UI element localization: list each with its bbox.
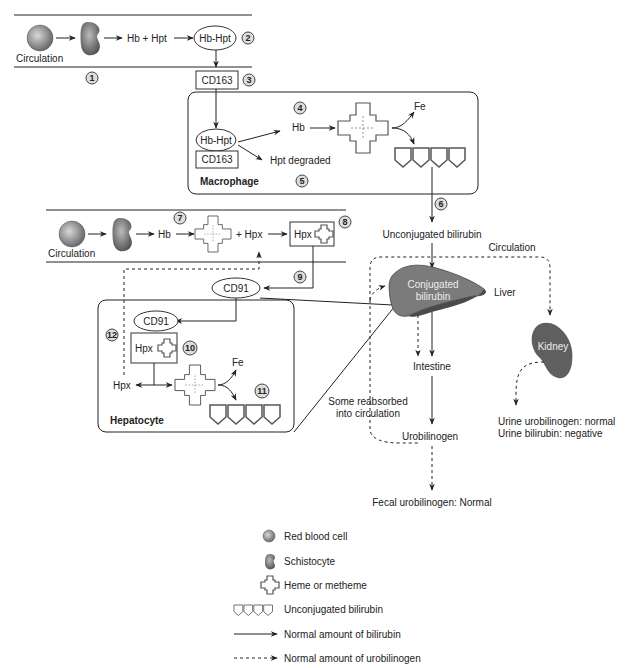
svg-text:7: 7 xyxy=(177,213,182,223)
svg-text:1: 1 xyxy=(89,73,94,83)
svg-text:11: 11 xyxy=(257,386,267,396)
svg-text:CD163: CD163 xyxy=(201,154,233,165)
heme-icon xyxy=(175,365,215,405)
heme-icon xyxy=(195,216,231,252)
svg-text:Schistocyte: Schistocyte xyxy=(284,556,336,567)
svg-text:Hpx: Hpx xyxy=(135,343,153,354)
svg-text:CD163: CD163 xyxy=(201,75,233,86)
hpx-recycled-text: Hpx xyxy=(113,380,131,391)
svg-text:into circulation: into circulation xyxy=(336,408,400,419)
svg-text:5: 5 xyxy=(299,176,304,186)
svg-text:2: 2 xyxy=(245,33,250,43)
schistocyte-icon xyxy=(113,218,132,251)
zoom-line-top xyxy=(260,298,393,305)
legend: Red blood cell Schistocyte Heme or methe… xyxy=(234,530,421,664)
reabsorbed-text: Some reabsorbed xyxy=(328,396,408,407)
svg-text:Hb-Hpt: Hb-Hpt xyxy=(200,135,232,146)
circulation-label: Circulation xyxy=(48,248,95,259)
unconjugated-bilirubin-chain xyxy=(210,405,280,424)
schistocyte-icon xyxy=(265,554,275,569)
conjugated-bilirubin-text: Conjugated xyxy=(407,279,458,290)
liver-flow: Unconjugated bilirubin Circulation Conju… xyxy=(328,229,615,508)
fecal-urobilinogen-text: Fecal urobilinogen: Normal xyxy=(372,497,492,508)
heme-icon xyxy=(261,576,279,594)
urine-bilirubin-text: Urine bilirubin: negative xyxy=(498,428,603,439)
red-blood-cell-icon xyxy=(59,221,85,247)
unconjugated-bilirubin-chain xyxy=(395,148,465,167)
svg-text:Normal amount of bilirubin: Normal amount of bilirubin xyxy=(284,629,401,640)
svg-text:3: 3 xyxy=(246,75,251,85)
hb-text: Hb xyxy=(158,229,171,240)
svg-text:Red blood cell: Red blood cell xyxy=(284,531,347,542)
macrophage-title: Macrophage xyxy=(200,176,259,187)
urobilinogen-label: Urobilinogen xyxy=(402,431,458,442)
svg-text:CD91: CD91 xyxy=(143,316,169,327)
svg-text:12: 12 xyxy=(107,330,117,340)
intestine-label: Intestine xyxy=(413,361,451,372)
hpt-degraded-text: Hpt degraded xyxy=(270,155,331,166)
hepatocyte-fe-text: Fe xyxy=(232,357,244,368)
schistocyte-icon xyxy=(81,22,100,55)
hb-hpt-complex-label: Hb-Hpt xyxy=(199,33,231,44)
bilirubin-metabolism-diagram: Hb + Hpt Hb-Hpt 2 Circulation 1 CD163 3 … xyxy=(0,0,637,668)
svg-text:6: 6 xyxy=(438,199,443,209)
circulation-label: Circulation xyxy=(16,53,63,64)
macrophage-hb-text: Hb xyxy=(292,122,305,133)
svg-text:Heme or metheme: Heme or metheme xyxy=(284,580,367,591)
hepatocyte-box: CD91 12 Hpx 10 Hpx Fe 11 Hepatocyte xyxy=(98,298,294,432)
plus-hpx-text: + Hpx xyxy=(236,229,262,240)
svg-text:CD91: CD91 xyxy=(223,283,249,294)
top-pathway: Hb + Hpt Hb-Hpt 2 Circulation 1 CD163 3 xyxy=(14,15,255,89)
kidney-label: Kidney xyxy=(538,341,569,352)
unconjugated-bilirubin-text: Unconjugated bilirubin xyxy=(383,229,482,240)
svg-text:Hpx: Hpx xyxy=(294,229,312,240)
red-blood-cell-icon xyxy=(27,25,53,51)
liver-label: Liver xyxy=(494,287,516,298)
circulation-label: Circulation xyxy=(488,242,535,253)
macrophage-fe-text: Fe xyxy=(414,101,426,112)
bottom-pathway: Hb 7 + Hpx Hpx 8 Circulation 9 CD91 xyxy=(46,210,351,375)
svg-text:Unconjugated bilirubin: Unconjugated bilirubin xyxy=(284,604,383,615)
hepatocyte-title: Hepatocyte xyxy=(110,415,164,426)
macrophage-box: Hb-Hpt CD163 Hb Hpt degraded 4 Fe Macrop… xyxy=(188,89,478,222)
svg-text:8: 8 xyxy=(342,217,347,227)
svg-text:Normal amount of urobilinogen: Normal amount of urobilinogen xyxy=(284,653,421,664)
red-blood-cell-icon xyxy=(263,530,275,542)
heme-icon xyxy=(338,103,388,153)
svg-text:4: 4 xyxy=(297,103,302,113)
hb-hpt-text: Hb + Hpt xyxy=(127,33,167,44)
unconjugated-bilirubin-icon xyxy=(234,605,273,615)
svg-text:9: 9 xyxy=(297,272,302,282)
urine-urobilinogen-text: Urine urobilinogen: normal xyxy=(498,416,615,427)
svg-text:10: 10 xyxy=(185,343,195,353)
svg-text:bilirubin: bilirubin xyxy=(416,291,450,302)
reabsorption-dashed-path xyxy=(370,300,418,443)
